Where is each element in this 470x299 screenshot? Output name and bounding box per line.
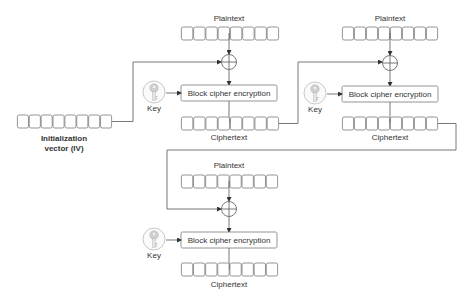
block-cell (390, 117, 401, 130)
block-cell (218, 263, 229, 276)
block-cell (426, 27, 437, 40)
key-icon (143, 81, 165, 103)
block-cell (181, 117, 192, 130)
block-cipher-label-3: Block cipher encryption (188, 236, 271, 245)
block-cell (378, 117, 389, 130)
iv-block (17, 115, 111, 128)
block-cell (267, 27, 278, 40)
block-cell (206, 175, 217, 188)
block-cell (366, 117, 377, 130)
block-cell (242, 263, 253, 276)
block-cell (414, 27, 425, 40)
ciphertext-label-2: Ciphertext (372, 133, 409, 142)
key-label-2: Key (308, 105, 322, 114)
block-cipher-label-2: Block cipher encryption (349, 90, 432, 99)
block-cell (255, 27, 266, 40)
block-cell (267, 117, 278, 130)
block-cell (230, 263, 241, 276)
block-cell (254, 175, 265, 188)
block-cell (378, 27, 389, 40)
block-cell (414, 117, 425, 130)
key-icon (304, 82, 326, 104)
block-cell (194, 27, 205, 40)
block-cell (426, 117, 437, 130)
key-icon (143, 228, 165, 250)
plaintext-label-2: Plaintext (375, 14, 406, 23)
block-cell (243, 117, 254, 130)
block-cell (41, 115, 52, 128)
plaintext-block-1 (181, 27, 278, 40)
block-cell (242, 175, 253, 188)
block-cell (230, 117, 241, 130)
block-cell (390, 27, 401, 40)
block-cell (230, 175, 241, 188)
block-cell (255, 117, 266, 130)
block-cell (65, 115, 76, 128)
block-cell (366, 27, 377, 40)
iv-label-line2: vector (IV) (44, 144, 83, 153)
block-cell (101, 115, 112, 128)
ciphertext-label-3: Ciphertext (211, 280, 248, 289)
block-cell (206, 263, 217, 276)
cbc-diagram: Initialization vector (IV) Plaintext Blo… (0, 0, 470, 299)
block-cell (254, 263, 265, 276)
block-cell (181, 27, 192, 40)
block-cell (181, 263, 192, 276)
xor-icon (222, 55, 237, 70)
ciphertext-block-2 (342, 117, 437, 130)
block-cell (29, 115, 40, 128)
block-cell (402, 117, 413, 130)
block-cell (194, 117, 205, 130)
block-cell (354, 27, 365, 40)
block-cell (402, 27, 413, 40)
block-cell (342, 117, 353, 130)
ciphertext-block-3 (181, 263, 277, 276)
block-cell (266, 175, 277, 188)
block-cell (194, 175, 205, 188)
iv-label-line1: Initialization (41, 134, 87, 143)
ciphertext-block-1 (181, 117, 278, 130)
block-cell (342, 27, 353, 40)
block-cell (243, 27, 254, 40)
xor-icon (383, 56, 398, 71)
block-cell (218, 27, 229, 40)
block-cell (218, 175, 229, 188)
block-cell (53, 115, 64, 128)
block-cell (218, 117, 229, 130)
block-cell (266, 263, 277, 276)
block-cell (206, 117, 217, 130)
block-cell (77, 115, 88, 128)
block-cell (194, 263, 205, 276)
plaintext-label-3: Plaintext (214, 161, 245, 170)
plaintext-block-3 (181, 175, 277, 188)
ciphertext-label-1: Ciphertext (211, 133, 248, 142)
block-cell (206, 27, 217, 40)
xor-icon (222, 202, 237, 217)
stage-2: Plaintext Block cipher encryption Key Ci… (304, 14, 438, 142)
block-cell (354, 117, 365, 130)
block-cell (181, 175, 192, 188)
stage-1: Plaintext Block cipher encryption Key Ci… (143, 14, 279, 142)
key-label-1: Key (147, 104, 161, 113)
key-label-3: Key (147, 251, 161, 260)
block-cell (89, 115, 100, 128)
block-cipher-label-1: Block cipher encryption (188, 89, 271, 98)
block-cell (230, 27, 241, 40)
plaintext-label-1: Plaintext (214, 14, 245, 23)
stage-3: Plaintext Block cipher encryption Key Ci… (143, 161, 278, 289)
block-cell (17, 115, 28, 128)
